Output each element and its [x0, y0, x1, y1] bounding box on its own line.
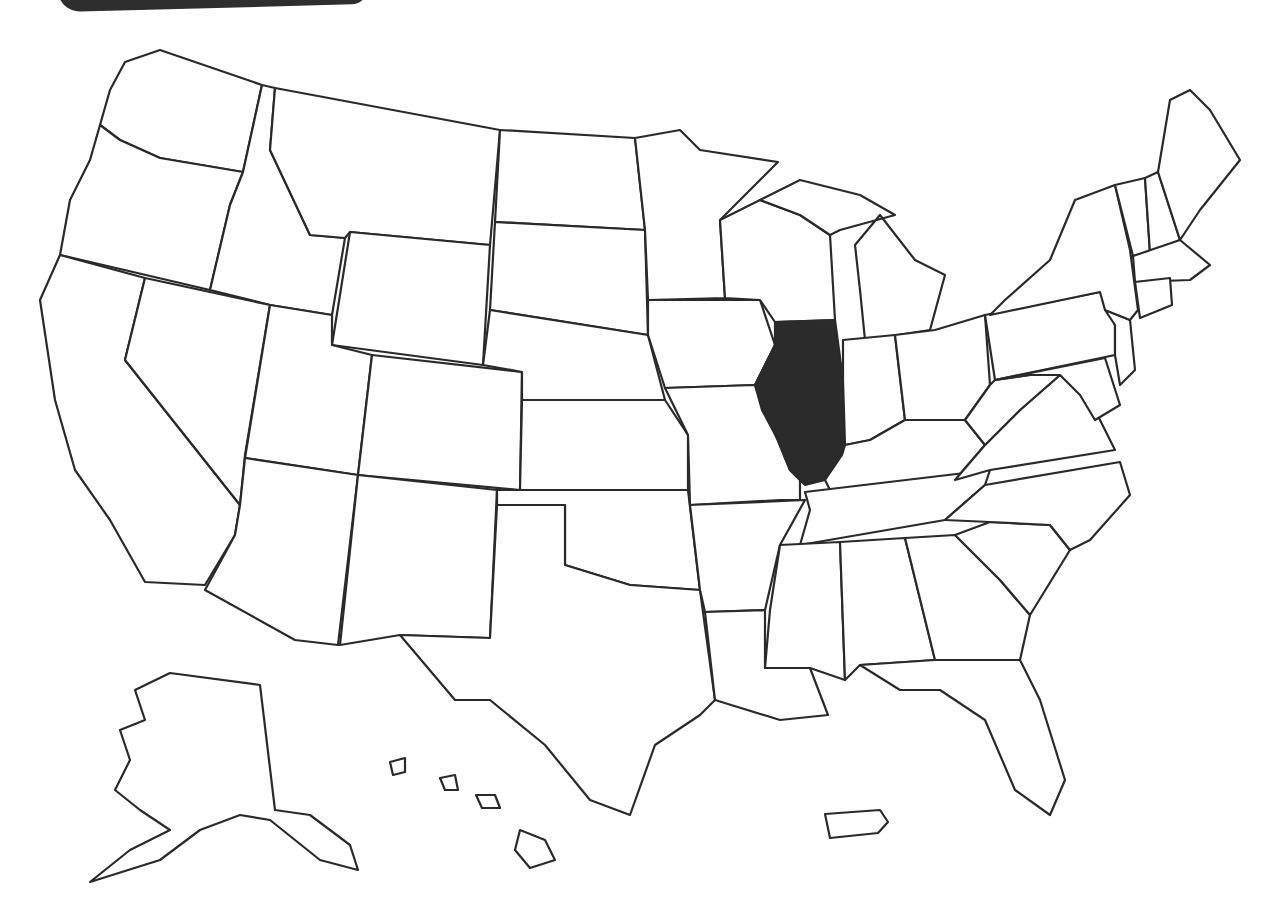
state-new-york[interactable]: [990, 185, 1138, 320]
state-iowa[interactable]: [648, 300, 775, 388]
state-connecticut[interactable]: [1135, 278, 1172, 318]
state-hawaii[interactable]: [390, 758, 555, 868]
state-north-dakota[interactable]: [495, 130, 645, 230]
us-outline-map: [0, 0, 1279, 902]
state-new-mexico[interactable]: [340, 475, 497, 645]
state-kansas[interactable]: [520, 400, 688, 490]
state-alaska[interactable]: [90, 673, 358, 882]
territory-puerto-rico[interactable]: [825, 810, 888, 838]
state-colorado[interactable]: [358, 355, 522, 490]
state-mississippi[interactable]: [765, 542, 845, 680]
state-montana[interactable]: [270, 88, 500, 245]
state-wyoming[interactable]: [332, 232, 490, 365]
state-florida[interactable]: [860, 660, 1065, 815]
